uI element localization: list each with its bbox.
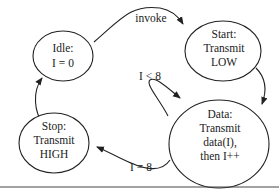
state-diagram: Idle: I = 0 Start: Transmit LOW Data: Tr…: [0, 0, 279, 193]
edge-label-i-lt-8: I < 8: [139, 70, 161, 82]
state-idle: Idle: I = 0: [33, 31, 93, 81]
node-label: HIGH: [40, 148, 69, 160]
node-label: data(I),: [203, 136, 237, 149]
node-label: Stop:: [42, 120, 66, 133]
node-label: Data:: [208, 108, 233, 120]
edge-label-i-eq-8: I = 8: [130, 161, 152, 173]
node-label: I = 0: [52, 57, 74, 69]
node-label: Transmit: [33, 134, 75, 146]
edge-data-self-loop: [149, 79, 180, 116]
state-stop: Stop: Transmit HIGH: [19, 113, 89, 173]
edge-label-invoke: invoke: [135, 12, 166, 24]
node-label: Start:: [212, 28, 237, 40]
node-label: then I++: [200, 150, 239, 162]
state-data: Data: Transmit data(I), then I++: [169, 100, 269, 188]
node-label: Transmit: [199, 122, 241, 134]
edge-start-to-data: [256, 68, 265, 104]
node-label: LOW: [211, 56, 237, 68]
node-label: Idle:: [52, 42, 73, 54]
node-label: Transmit: [203, 42, 245, 54]
state-start: Start: Transmit LOW: [185, 21, 261, 81]
